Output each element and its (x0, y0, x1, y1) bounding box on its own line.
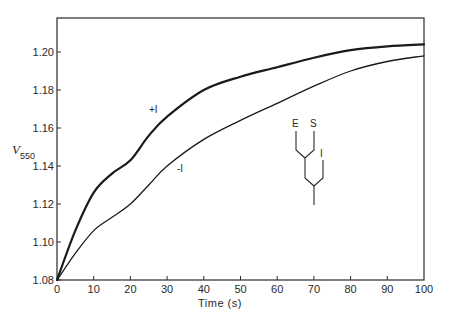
scheme-es-stem (305, 158, 314, 186)
y-axis-title: V 550 (12, 142, 35, 161)
curve-label-plus-i: +I (149, 104, 158, 115)
scheme-label-i: I (320, 148, 323, 159)
x-tick-label: 80 (344, 283, 356, 295)
curves (57, 44, 424, 280)
branching-scheme-diagram (296, 131, 323, 205)
scheme-s-branch (305, 131, 314, 158)
scheme-i-branch (314, 160, 323, 186)
y-tick-label: 1.16 (33, 122, 54, 134)
x-tick-label: 100 (415, 283, 433, 295)
y-tick-label: 1.20 (33, 46, 54, 58)
scheme-label-s: S (310, 118, 317, 129)
curve-plus-i (57, 44, 424, 280)
scheme-label-e: E (292, 118, 299, 129)
y-tick-label: 1.18 (33, 84, 54, 96)
y-tick-label: 1.10 (33, 236, 54, 248)
y-tick-label: 1.08 (33, 274, 54, 286)
plot-frame (57, 18, 424, 280)
curve-minus-i (57, 56, 424, 280)
y-axis-title-subscript: 550 (20, 151, 35, 161)
x-axis-title: Time (s) (198, 297, 242, 309)
x-tick-label: 40 (198, 283, 210, 295)
x-tick-label: 70 (308, 283, 320, 295)
x-tick-label: 30 (161, 283, 173, 295)
y-tick-label: 1.12 (33, 198, 54, 210)
curve-label-minus-i: -I (177, 163, 183, 174)
x-axis-ticks: 0102030405060708090100 (54, 276, 433, 295)
x-tick-label: 90 (381, 283, 393, 295)
x-tick-label: 50 (234, 283, 246, 295)
chart: 1.081.101.121.141.161.181.20 01020304050… (0, 0, 452, 325)
x-tick-label: 10 (88, 283, 100, 295)
scheme-e-branch (296, 131, 305, 158)
y-tick-label: 1.14 (33, 160, 54, 172)
x-tick-label: 0 (54, 283, 60, 295)
plot-border (57, 18, 424, 280)
x-tick-label: 20 (124, 283, 136, 295)
x-tick-label: 60 (271, 283, 283, 295)
